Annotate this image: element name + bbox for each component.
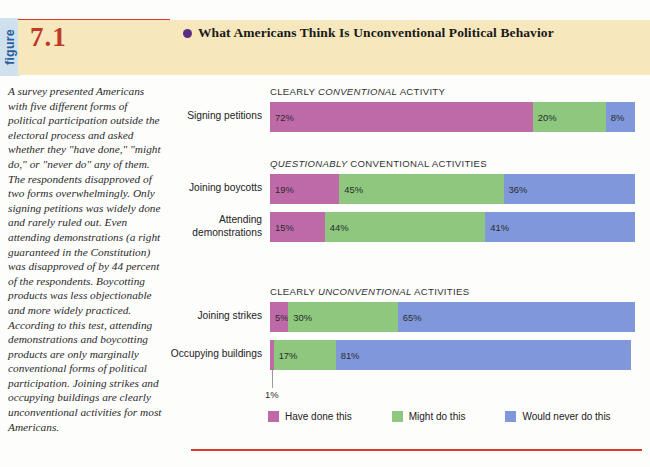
bar-segment[interactable]: 15% [270,212,325,242]
bar-segment[interactable]: 20% [533,102,606,132]
legend-swatch-icon [392,411,403,422]
bar-row-label: Joining strikes [152,310,262,323]
group-heading-part: ACTIVITY [397,86,445,97]
group-heading: CLEARLY UNCONVENTIONAL ACTIVITIES [270,286,469,297]
bar-row-label: Occupying buildings [152,348,262,361]
bar-segment-value: 36% [509,184,528,195]
bar-row-label: Attendingdemonstrations [152,214,262,239]
bar-segment[interactable]: 41% [485,212,635,242]
stacked-bar[interactable]: 72%20%8% [270,102,635,132]
bar-segment[interactable]: 44% [325,212,486,242]
bar-segment[interactable]: 45% [339,174,503,204]
callout-label: 1% [265,389,279,400]
bar-segment-value: 81% [341,350,360,361]
bar-segment-value: 45% [344,184,363,195]
bar-segment[interactable]: 5% [270,302,288,332]
group-heading-part: CONVENTIONAL ACTIVITIES [347,158,487,169]
group-heading-part: CLEARLY [270,286,318,297]
stacked-bar[interactable]: 19%45%36% [270,174,635,204]
bar-segment[interactable]: 8% [606,102,635,132]
chart-legend: Have done thisMight do thisWould never d… [268,411,611,422]
bar-row-label-line: Joining boycotts [152,182,262,195]
stacked-bar[interactable]: 15%44%41% [270,212,635,242]
group-heading: QUESTIONABLY CONVENTIONAL ACTIVITIES [270,158,487,169]
bar-segment-value: 65% [403,312,422,323]
group-heading-emphasis: CONVENTIONAL [318,86,397,97]
figure-page: figure 7.1 What Americans Think Is Uncon… [0,0,650,467]
bar-segment[interactable]: 72% [270,102,533,132]
bar-segment-value: 15% [275,222,294,233]
bar-segment[interactable]: 36% [504,174,635,204]
legend-label: Have done this [285,411,352,422]
legend-swatch-icon [505,411,516,422]
group-heading-emphasis: QUESTIONABLY [270,158,347,169]
bar-row-label-line: Joining strikes [152,310,262,323]
bar-segment[interactable]: 17% [274,340,336,370]
group-heading-emphasis: UNCONVENTIONAL [318,286,412,297]
bar-segment-value: 17% [279,350,298,361]
footer-rule [191,449,642,451]
bar-segment-value: 44% [330,222,349,233]
bar-segment-value: 8% [611,112,625,123]
legend-item[interactable]: Have done this [268,411,352,422]
bar-row-label-line: Occupying buildings [152,348,262,361]
group-heading: CLEARLY CONVENTIONAL ACTIVITY [270,86,445,97]
bar-segment[interactable]: 81% [336,340,632,370]
bar-segment[interactable]: 30% [288,302,398,332]
legend-label: Might do this [409,411,466,422]
bar-row-label-line: Signing petitions [152,110,262,123]
callout-leader-line [272,370,273,388]
chart-area: CLEARLY CONVENTIONAL ACTIVITYSigning pet… [0,0,650,467]
bar-segment-value: 30% [293,312,312,323]
group-heading-part: ACTIVITIES [412,286,470,297]
bar-segment-value: 41% [490,222,509,233]
bar-segment-value: 20% [538,112,557,123]
bar-segment-value: 19% [275,184,294,195]
bar-row-label-line: Attending [152,214,262,227]
legend-item[interactable]: Might do this [392,411,466,422]
group-heading-part: CLEARLY [270,86,318,97]
bar-row-label: Joining boycotts [152,182,262,195]
bar-segment-value: 72% [275,112,294,123]
bar-segment[interactable]: 19% [270,174,339,204]
bar-row-label: Signing petitions [152,110,262,123]
bar-row-label-line: demonstrations [152,227,262,240]
bar-segment[interactable]: 65% [398,302,635,332]
stacked-bar[interactable]: 5%30%65% [270,302,635,332]
bar-segment-value: 5% [275,312,289,323]
legend-swatch-icon [268,411,279,422]
legend-label: Would never do this [522,411,610,422]
legend-item[interactable]: Would never do this [505,411,610,422]
stacked-bar[interactable]: 17%81% [270,340,635,370]
